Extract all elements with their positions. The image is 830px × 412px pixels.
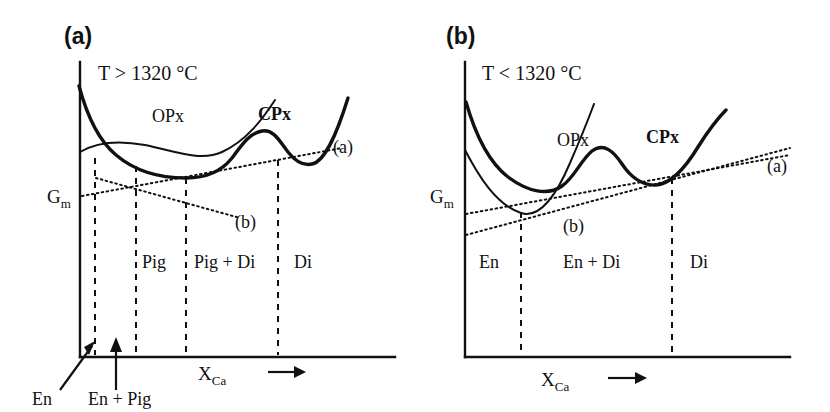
panel-b-region-label-en: En: [479, 252, 499, 272]
panel-b-cpx-curve: [466, 102, 726, 192]
panel-a-xaxis-arrow-head: [294, 366, 306, 378]
figure-root: (a) T > 1320 °C OPx CPx (a) (b) Gm Pig P…: [0, 0, 830, 412]
panel-a-tangent-b-label: (b): [235, 212, 256, 233]
panel-a-tangent-a-label: (a): [333, 137, 353, 158]
panel-b-cpx-curve-label: CPx: [646, 127, 679, 147]
panel-b-region-label-di: Di: [690, 252, 708, 272]
panel-a-arrow-label-en: En: [32, 389, 52, 409]
panel-a: (a) T > 1320 °C OPx CPx (a) (b) Gm Pig P…: [32, 23, 395, 409]
panel-b-opx-curve: [465, 104, 594, 214]
panel-a-x-axis-label: XCa: [198, 363, 226, 388]
panel-b: (b) T < 1320 °C OPx CPx (a) (b) Gm En En…: [430, 23, 790, 394]
panel-a-region-label-di: Di: [294, 252, 312, 272]
panel-a-opx-curve-label: OPx: [152, 106, 184, 126]
panel-b-xaxis-arrow-head: [635, 372, 647, 384]
panel-a-cpx-curve: [79, 86, 348, 178]
panel-a-label: (a): [64, 23, 92, 49]
panel-a-arrow-label-enpig: En + Pig: [88, 389, 151, 409]
panel-a-region-label-pig: Pig: [142, 252, 166, 272]
panel-b-label: (b): [446, 23, 475, 49]
panel-b-x-axis-label: XCa: [541, 369, 569, 394]
panel-b-tangent-line-b: [466, 148, 790, 235]
panel-a-en-arrow-line: [60, 346, 92, 390]
figure-canvas: (a) T > 1320 °C OPx CPx (a) (b) Gm Pig P…: [0, 0, 830, 412]
panel-a-y-axis-label: Gm: [47, 186, 71, 211]
panel-b-y-axis-label: Gm: [430, 186, 454, 211]
panel-b-opx-curve-label: OPx: [557, 130, 589, 150]
panel-a-region-label-pigdi: Pig + Di: [194, 252, 255, 272]
panel-b-region-label-endi: En + Di: [563, 252, 620, 272]
panel-a-cpx-curve-label: CPx: [258, 104, 291, 124]
panel-a-temperature-label: T > 1320 °C: [98, 62, 197, 84]
panel-b-temperature-label: T < 1320 °C: [482, 62, 581, 84]
panel-b-tangent-b-label: (b): [563, 216, 584, 237]
panel-b-tangent-line-a: [466, 155, 790, 214]
panel-a-enpig-arrow-head: [110, 337, 122, 352]
panel-b-tangent-a-label: (a): [767, 156, 787, 177]
panel-a-tangent-line-b: [96, 178, 240, 218]
